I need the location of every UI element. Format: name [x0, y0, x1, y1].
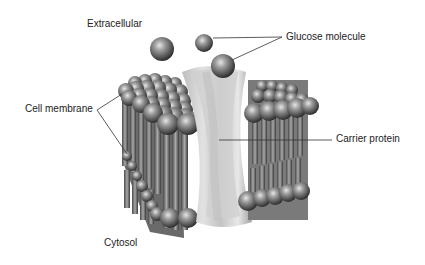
extracellular-label: Extracellular: [87, 18, 142, 30]
glucose-leader-2: [232, 37, 282, 60]
cell-membrane-label: Cell membrane: [25, 103, 93, 115]
glucose-molecule-3: [211, 54, 235, 78]
glucose-molecule-2: [195, 34, 213, 52]
cytosol-label: Cytosol: [104, 237, 137, 249]
membrane-leader-1: [97, 94, 122, 110]
glucose-leader-1: [213, 37, 282, 38]
glucose-molecule-1: [150, 37, 174, 61]
right-membrane-block: [238, 80, 319, 220]
glucose-molecule-label: Glucose molecule: [286, 31, 365, 43]
carrier-protein-label: Carrier protein: [336, 133, 400, 145]
